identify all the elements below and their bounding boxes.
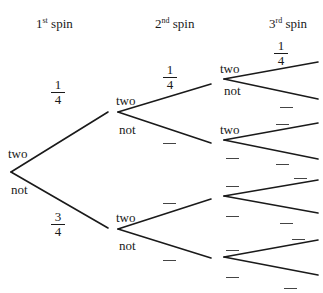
label-2-lower-not: not: [119, 239, 136, 252]
prob-1-not: 34: [51, 211, 65, 238]
blank-3-n3-two[interactable]: [294, 178, 307, 179]
branch-3-n4-two: [224, 240, 318, 257]
prob-3-n1-two: 14: [274, 40, 288, 67]
branch-3-n2-not: [224, 140, 318, 159]
label-3-n1-two: two: [220, 62, 240, 75]
blank-3-n3-not-label[interactable]: [226, 216, 239, 217]
blank-3-n4-two-label[interactable]: [226, 250, 239, 251]
label-1-two: two: [8, 147, 28, 160]
branch-3-n4-not: [224, 257, 318, 275]
label-1-not: not: [11, 183, 28, 196]
label-3-n2-two: two: [220, 123, 240, 136]
blank-3-n4-not[interactable]: [284, 288, 297, 289]
blank-2-lower-two[interactable]: [163, 203, 176, 204]
blank-2-upper-not[interactable]: [163, 143, 176, 144]
label-3-n1-not: not: [224, 84, 241, 97]
blank-2-lower-not[interactable]: [163, 260, 176, 261]
header-1st-spin: 1st spin: [36, 17, 73, 31]
blank-3-n2-not-label[interactable]: [226, 158, 239, 159]
blank-3-n1-not[interactable]: [280, 107, 293, 108]
label-2-lower-two: two: [116, 211, 136, 224]
header-3rd-spin: 3rd spin: [269, 17, 307, 31]
label-2-upper-two: two: [116, 94, 136, 107]
blank-3-n3-two-label[interactable]: [226, 186, 239, 187]
branch-3-n3-not: [224, 196, 318, 213]
blank-3-n2-two[interactable]: [276, 124, 289, 125]
blank-3-n4-not-label[interactable]: [226, 277, 239, 278]
prob-2-upper-two: 14: [163, 64, 177, 91]
header-2nd-spin: 2nd spin: [155, 17, 194, 31]
prob-1-two: 14: [51, 79, 65, 106]
label-2-upper-not: not: [119, 123, 136, 136]
blank-3-n2-not[interactable]: [276, 164, 289, 165]
blank-3-n3-not[interactable]: [280, 223, 293, 224]
branch-1-two: [11, 112, 108, 172]
blank-3-n4-two[interactable]: [292, 239, 305, 240]
branch-3-n3-two: [224, 180, 318, 196]
